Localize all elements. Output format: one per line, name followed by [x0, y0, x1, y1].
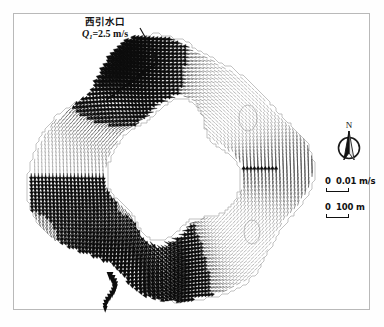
velocity-vector — [220, 137, 222, 141]
velocity-vector — [236, 231, 239, 234]
velocity-vector — [254, 264, 257, 267]
velocity-vector — [222, 232, 226, 235]
velocity-vector — [233, 77, 237, 79]
velocity-vector — [226, 77, 230, 79]
velocity-vector — [218, 228, 222, 231]
velocity-vector — [219, 106, 222, 109]
velocity-vector — [267, 108, 269, 112]
velocity-vector — [230, 116, 233, 119]
velocity-vector — [233, 205, 235, 209]
velocity-vector — [251, 216, 253, 220]
velocity-vector — [259, 116, 261, 120]
velocity-vector — [244, 95, 247, 98]
velocity-vector — [259, 102, 262, 105]
velocity-vector — [252, 95, 255, 98]
velocity-vector — [256, 102, 259, 105]
velocity-vector — [212, 127, 215, 130]
velocity-vector — [222, 67, 226, 69]
velocity-vector — [233, 261, 237, 264]
velocity-vector — [244, 272, 248, 275]
velocity-vector — [244, 213, 246, 217]
velocity-vector — [237, 88, 240, 91]
velocity-vector — [258, 257, 261, 260]
velocity-vector — [240, 220, 243, 223]
velocity-vector — [236, 220, 239, 223]
velocity-vector — [244, 81, 247, 84]
velocity-vector — [207, 103, 211, 105]
velocity-vector — [240, 239, 243, 242]
velocity-vector — [229, 243, 233, 246]
velocity-vector — [151, 102, 161, 107]
velocity-vector — [226, 235, 229, 238]
velocity-vector — [215, 116, 218, 119]
velocity-vector — [272, 223, 274, 227]
velocity-vector — [259, 112, 261, 116]
velocity-vector — [208, 134, 211, 137]
velocity-vector — [241, 116, 244, 119]
velocity-vector — [254, 227, 257, 230]
velocity-vector — [215, 109, 219, 112]
velocity-vector — [204, 127, 207, 130]
velocity-vector — [226, 243, 230, 246]
velocity-vector — [211, 221, 215, 224]
velocity-vector — [229, 77, 233, 79]
velocity-vector — [204, 106, 208, 108]
velocity-vector — [247, 253, 250, 256]
velocity-vector — [226, 91, 230, 94]
velocity-vector — [222, 235, 226, 238]
velocity-vector — [226, 99, 229, 102]
velocity-vector — [254, 238, 257, 241]
velocity-vector — [241, 98, 244, 101]
velocity-vector — [252, 112, 254, 116]
velocity-vector — [267, 105, 269, 109]
velocity-vector — [247, 261, 250, 264]
velocity-vector — [263, 105, 265, 108]
velocity-vector — [237, 95, 240, 98]
velocity-vector — [254, 212, 256, 216]
velocity-vector — [251, 224, 253, 228]
velocity-vector — [233, 84, 236, 87]
velocity-vector — [244, 102, 247, 105]
velocity-vector — [265, 246, 268, 249]
velocity-vector — [211, 99, 215, 101]
velocity-vector — [276, 223, 278, 227]
velocity-vector — [244, 88, 247, 91]
velocity-vector — [226, 120, 229, 123]
velocity-vector — [236, 268, 240, 271]
velocity-vector — [263, 109, 265, 113]
velocity-vector — [244, 242, 247, 245]
velocity-vector — [262, 253, 265, 256]
velocity-vector — [248, 98, 251, 101]
velocity-vector — [222, 99, 226, 102]
velocity-vector — [247, 228, 250, 231]
velocity-vector — [204, 113, 208, 115]
velocity-vector — [251, 246, 254, 249]
velocity-vector — [229, 74, 233, 76]
velocity-vector — [238, 126, 240, 130]
inlet-annotation: 西引水口 Q1=2.5 m/s — [63, 17, 147, 40]
velocity-vector — [241, 126, 243, 130]
velocity-vector — [215, 95, 219, 97]
velocity-vector — [272, 227, 274, 231]
velocity-vector — [240, 77, 243, 80]
velocity-vector — [172, 237, 181, 242]
velocity-vector — [223, 123, 226, 126]
velocity-vector — [223, 120, 226, 123]
velocity-vector — [207, 106, 211, 108]
velocity-vector — [218, 99, 222, 102]
velocity-vector — [211, 92, 215, 94]
velocity-vector — [230, 123, 233, 126]
velocity-vector — [240, 81, 243, 84]
velocity-vector — [222, 74, 226, 76]
velocity-vector — [222, 84, 226, 86]
velocity-vector — [240, 253, 243, 256]
velocity-vector — [240, 209, 242, 213]
velocity-vector — [256, 105, 259, 108]
velocity-vector — [252, 119, 254, 123]
velocity-vector — [269, 235, 271, 239]
velocity-vector — [233, 250, 237, 253]
velocity-vector — [267, 119, 269, 123]
velocity-vector — [270, 115, 272, 119]
velocity-vector — [132, 122, 139, 126]
velocity-vector — [215, 221, 219, 224]
